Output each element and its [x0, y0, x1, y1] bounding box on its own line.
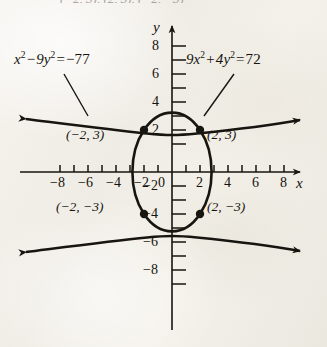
- hyperbola-equation-label: x2−9y2=−77: [14, 52, 90, 67]
- point-label-neg2-neg3: (−2, −3): [56, 200, 103, 214]
- hyperbola-eq-minus: −: [26, 51, 37, 67]
- hyperbola-eq-equals: =: [55, 51, 66, 67]
- y-tick-label-8: 8: [152, 39, 159, 53]
- ellipse-eq-4y: 4y: [216, 51, 230, 67]
- y-tick-label-neg6: −6: [143, 235, 158, 249]
- point-label-2-3: (2, 3): [207, 128, 236, 142]
- ellipse-leader-line: [204, 74, 234, 116]
- x-tick-label-neg8: −8: [50, 176, 65, 190]
- x-tick-label-neg2: −2: [134, 176, 149, 190]
- ellipse-eq-9x: 9x: [186, 51, 200, 67]
- hyperbola-leader-line: [64, 74, 88, 116]
- point-label-2-neg3: (2, −3): [207, 200, 245, 214]
- origin-label: 0: [158, 176, 165, 190]
- ellipse-eq-equals: =: [235, 51, 246, 67]
- y-axis-ticks: [172, 46, 186, 284]
- x-axis-name: x: [296, 176, 303, 191]
- ellipse-eq-plus: +: [205, 51, 216, 67]
- point-marker-2-3: [196, 126, 204, 134]
- hyperbola-eq-x-exp: 2: [21, 50, 26, 60]
- ellipse-eq-rhs: 72: [246, 51, 261, 67]
- conic-graph-figure: (−2, 3), (2, 3), (−2, −3): [0, 0, 327, 347]
- x-tick-label-neg6: −6: [78, 176, 93, 190]
- y-tick-label-neg8: −8: [143, 263, 158, 277]
- y-axis-name: y: [153, 20, 160, 35]
- point-marker-2-neg3: [196, 210, 204, 218]
- x-tick-label-2: 2: [196, 176, 203, 190]
- x-tick-label-6: 6: [252, 176, 259, 190]
- y-tick-label-2: 2: [152, 123, 159, 137]
- hyperbola-eq-x: x: [14, 51, 21, 67]
- x-tick-label-4: 4: [224, 176, 231, 190]
- hyperbola-eq-rhs: −77: [66, 51, 90, 67]
- x-tick-label-neg4: −4: [106, 176, 121, 190]
- y-tick-label-neg4: −4: [143, 207, 158, 221]
- x-tick-label-8: 8: [280, 176, 287, 190]
- hyperbola-lower-branch: [26, 236, 300, 252]
- y-tick-label-4: 4: [152, 95, 159, 109]
- point-marker-neg2-3: [140, 126, 148, 134]
- ellipse-equation-label: 9x2+4y2=72: [186, 52, 261, 67]
- hyperbola-eq-9y: 9y: [36, 51, 50, 67]
- point-label-neg2-3: (−2, 3): [66, 128, 104, 142]
- y-tick-label-6: 6: [152, 67, 159, 81]
